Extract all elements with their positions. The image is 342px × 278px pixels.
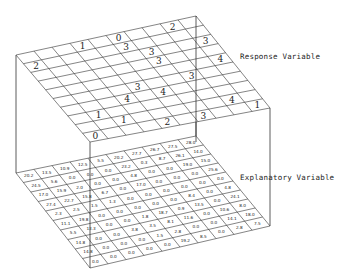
cell-value: 1 [254, 100, 260, 110]
cell-value: 2 [33, 61, 39, 71]
cell-value: 0.0 [112, 177, 119, 182]
cell-value: 19.8 [79, 217, 89, 222]
three-d-grid-diagram: 20.224.517.027.42.311.15.514.814.80.013.… [0, 0, 342, 278]
cell-value: 26.7 [150, 147, 160, 152]
cell-value: 0.0 [105, 168, 112, 173]
cell-value: 0.0 [192, 171, 199, 176]
cell-value: 27.7 [132, 151, 142, 156]
cell-value: 7.5 [254, 221, 261, 226]
response-variable-grid [16, 16, 270, 142]
cell-value: 0.0 [139, 237, 146, 242]
cell-value: 12.5 [78, 162, 88, 167]
cell-value: 2 [164, 117, 170, 127]
cell-value: 5.5 [70, 230, 77, 235]
cell-value: 3.5 [149, 223, 156, 228]
cell-value: 0.0 [116, 209, 123, 214]
cell-value: 1 [80, 41, 86, 51]
cell-value: 14.8 [76, 240, 86, 245]
cell-value: 8.5 [200, 234, 207, 239]
cell-value: 15.8 [82, 194, 92, 199]
cell-value: 0 [92, 131, 98, 141]
cell-value: 0.0 [211, 220, 218, 225]
cell-value: 4.8 [224, 185, 231, 190]
cell-value: 0.0 [92, 259, 99, 264]
cell-value: 14.0 [193, 149, 203, 154]
cell-value: 11.6 [184, 215, 194, 220]
cell-value: 1.8 [142, 214, 149, 219]
cell-value: 0.0 [163, 188, 170, 193]
cell-value: 0.0 [218, 229, 225, 234]
cell-value: 14.1 [227, 216, 237, 221]
cell-value: 3 [123, 42, 129, 52]
cell-value: 3 [156, 56, 162, 66]
cell-value: 0.0 [113, 232, 120, 237]
cell-value: 1.5 [157, 233, 164, 238]
cell-value: 10.9 [60, 166, 70, 171]
cell-value: 2.8 [175, 229, 182, 234]
cell-value: 8.4 [188, 193, 195, 198]
cell-value: 0.0 [106, 222, 113, 227]
cell-value: 8.0 [239, 203, 246, 208]
cell-value: 11.1 [61, 221, 71, 226]
cell-value: 17.0 [136, 182, 146, 187]
cell-value: 18.7 [158, 210, 168, 215]
cell-value: 24.5 [31, 183, 41, 188]
cell-value: 0.0 [164, 242, 171, 247]
cell-value: 4 [229, 95, 235, 105]
cell-value: 0.0 [199, 180, 206, 185]
explanatory-variable-label: Explanatory Variable [240, 173, 334, 182]
cell-value: 0.0 [127, 196, 134, 201]
cell-value: 13.3 [86, 226, 96, 231]
cell-value: 15.0 [201, 158, 211, 163]
cell-value: 2.0 [76, 185, 83, 190]
cell-value: 0.0 [120, 186, 127, 191]
cell-value: 13.5 [194, 202, 204, 207]
cell-value: 17.0 [39, 192, 49, 197]
cell-value: 8.7 [159, 156, 166, 161]
cell-value: 15.9 [57, 188, 67, 193]
cell-value: 3 [149, 47, 155, 57]
cell-value: 4 [160, 87, 166, 97]
cell-value: 0.0 [217, 176, 224, 181]
cell-value: 0.0 [95, 236, 102, 241]
cell-value: 24.1 [230, 194, 240, 199]
cell-value: 4 [217, 54, 223, 64]
cell-value: 0 [116, 33, 122, 43]
cell-value: 0.0 [134, 205, 141, 210]
cell-value: 14.8 [83, 249, 93, 254]
cell-value: 4 [124, 94, 130, 104]
cell-value: 22.7 [64, 198, 74, 203]
cell-value: 0.9 [178, 206, 185, 211]
cell-value: 0.0 [69, 175, 76, 180]
cell-value: 23.2 [121, 164, 131, 169]
cell-value: 20.2 [114, 155, 124, 160]
cell-value: 1 [121, 115, 127, 125]
cell-value: 0.0 [121, 241, 128, 246]
response-variable-label: Response Variable [240, 52, 320, 61]
cell-value: 0.3 [141, 160, 148, 165]
cell-value: 6.7 [102, 190, 109, 195]
cell-value: 0.0 [128, 250, 135, 255]
cell-value: 0.0 [103, 245, 110, 250]
cell-value: 3 [203, 36, 209, 46]
cell-value: 2.3 [55, 211, 62, 216]
cell-value: 5.5 [97, 158, 104, 163]
cell-value: 0.0 [156, 179, 163, 184]
cell-value: 0.0 [203, 211, 210, 216]
cell-value: 0.0 [166, 166, 173, 171]
cell-value: 0.0 [181, 184, 188, 189]
cell-value: 0.0 [193, 224, 200, 229]
cell-value: 28.0 [186, 140, 196, 145]
cell-value: 13.5 [42, 170, 52, 175]
cell-value: 19.2 [181, 238, 191, 243]
cell-value: 26.1 [175, 153, 185, 158]
cell-value: 20.2 [24, 173, 34, 178]
cell-value: 0.0 [146, 246, 153, 251]
cell-value: 2 [170, 22, 176, 32]
cell-value: 3.8 [131, 227, 138, 232]
cell-value: 5.6 [51, 179, 58, 184]
cell-value: 0.0 [206, 189, 213, 194]
cell-value: 0.0 [152, 201, 159, 206]
cell-value: 10.6 [220, 207, 230, 212]
cell-value: 19.0 [183, 162, 193, 167]
